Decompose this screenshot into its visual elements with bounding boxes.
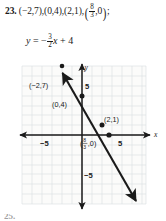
equation-intercept: 4 <box>68 35 73 46</box>
data-point-8thirds-0 <box>106 132 111 137</box>
data-point-0-4 <box>80 94 85 99</box>
problem-number: 23. <box>5 6 17 16</box>
equation-slope-fraction: 32 <box>47 34 53 50</box>
point-trailing-semicolon: ; <box>107 6 110 16</box>
equation-minus-sign: − <box>41 35 47 46</box>
point-label-minus2-7: (−2,7) <box>29 81 48 90</box>
equation-lhs: y <box>26 35 30 46</box>
equation-slope-numerator: 3 <box>47 34 53 41</box>
point-fraction-rest: ,0 <box>95 6 102 16</box>
equation-slope-denominator: 2 <box>47 41 53 49</box>
point-label-8thirds-numerator: 8 <box>83 137 86 143</box>
x-tick-negative-5: −5 <box>40 139 49 148</box>
point-label-0-4: (0,4) <box>52 100 67 109</box>
point-list-text: (−2,7),(0,4),(2,1), <box>19 6 84 16</box>
y-tick-negative-5: −5 <box>84 171 93 180</box>
y-axis-label: y <box>84 63 89 72</box>
coordinate-graph: (−2,7) (0,4) (2,1) ( 8 3 ,0) −5 5 5 −5 x… <box>0 56 166 216</box>
point-label-8thirds-0: ( 8 3 ,0) <box>80 137 96 149</box>
point-label-2-1: (2,1) <box>104 115 119 124</box>
point-label-8thirds-denominator: 3 <box>83 144 86 150</box>
data-point-minus2-7 <box>60 64 65 69</box>
x-axis-label: x <box>153 130 158 139</box>
equation-variable: x <box>53 35 57 46</box>
graph-canvas: (−2,7) (0,4) (2,1) ( 8 3 ,0) −5 5 5 −5 x… <box>0 56 166 216</box>
equation-equals: = <box>33 35 39 46</box>
point-label-8thirds-rest: ,0) <box>88 139 97 148</box>
equation-plus-sign: + <box>60 35 66 46</box>
point-close-paren: ) <box>103 8 107 19</box>
next-problem-number: 25. <box>4 214 15 221</box>
equation-line: y = −32x + 4 <box>26 34 73 50</box>
problem-statement-line: 23. (−2,7),(0,4),(2,1),(83,0); <box>5 4 110 20</box>
next-problem-cutoff: 25. <box>4 214 162 221</box>
point-open-paren: ( <box>85 8 89 19</box>
